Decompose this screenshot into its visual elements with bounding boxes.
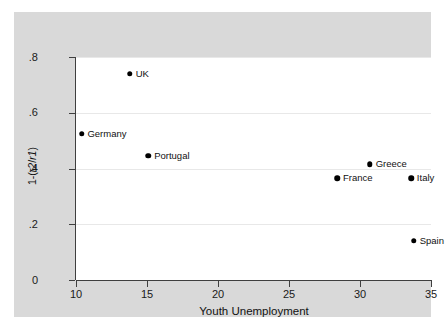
data-point-label: Portugal [154,151,189,161]
data-point-label: Spain [420,236,444,246]
data-point-marker [408,176,414,182]
y-tick-mark [69,113,75,114]
x-tick-mark [147,281,148,287]
data-point: France [335,174,373,184]
data-point-label: Italy [417,174,434,184]
data-point: Germany [79,129,127,139]
chart-screenshot: .8.6.4.20 101520253035 GermanyUKPortugal… [0,0,445,329]
y-tick-label: 0 [32,275,38,286]
x-tick-label: 20 [212,289,224,300]
x-tick-label: 25 [283,289,295,300]
x-tick-mark [289,281,290,287]
x-tick-mark [76,281,77,287]
x-axis-line [76,280,432,281]
data-point-label: France [343,174,373,184]
data-point-marker [367,162,373,168]
x-tick-label: 15 [141,289,153,300]
x-tick-label: 30 [354,289,366,300]
data-point-marker [146,153,152,159]
x-tick-mark [431,281,432,287]
data-point: Portugal [146,151,190,161]
data-point-marker [79,131,85,137]
gridline [76,224,431,225]
y-tick-mark [69,57,75,58]
x-tick-mark [360,281,361,287]
x-tick-mark [218,281,219,287]
x-tick-label: 10 [70,289,82,300]
data-point-marker [411,238,417,244]
data-point-label: Germany [87,129,126,139]
data-point: Greece [367,160,407,170]
y-axis-title: 1-(r2/r1) [26,101,38,231]
y-tick-mark [69,280,75,281]
data-point: Spain [411,236,444,246]
data-point: UK [127,69,149,79]
y-tick-label: .8 [29,52,38,63]
data-point: Italy [408,174,434,184]
gridline [76,113,431,114]
y-tick-mark [69,224,75,225]
y-tick-mark [69,169,75,170]
data-point-label: UK [136,69,149,79]
data-point-marker [335,176,341,182]
data-point-marker [127,71,133,77]
x-tick-label: 35 [425,289,437,300]
data-point-label: Greece [376,160,407,170]
graph-region: .8.6.4.20 101520253035 GermanyUKPortugal… [14,12,431,317]
x-axis-title: Youth Unemployment [76,305,432,317]
